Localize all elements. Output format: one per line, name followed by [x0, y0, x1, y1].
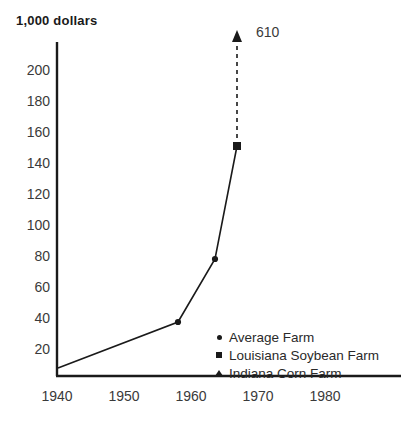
data-point-marker-1969	[212, 256, 218, 262]
legend-label-louisiana-soybean-farm: Louisiana Soybean Farm	[229, 348, 379, 363]
legend-triangle-icon	[212, 370, 226, 376]
chart-container: 1,000 dollars 200 180 160 140 120 100 80…	[0, 0, 412, 435]
legend-label-indiana-corn-farm: Indiana Corn Farm	[229, 366, 342, 381]
legend-item-average-farm: Average Farm	[212, 328, 379, 346]
data-line-average-farm	[58, 146, 237, 368]
legend-square-icon	[212, 352, 226, 358]
data-point-marker-1960	[175, 319, 181, 325]
legend-item-louisiana-soybean-farm: Louisiana Soybean Farm	[212, 346, 379, 364]
legend-label-average-farm: Average Farm	[229, 330, 314, 345]
data-point-marker-soybean-1971	[233, 142, 241, 150]
chart-legend: Average Farm Louisiana Soybean Farm Indi…	[212, 328, 379, 382]
legend-circle-icon	[212, 335, 226, 340]
legend-item-indiana-corn-farm: Indiana Corn Farm	[212, 364, 379, 382]
arrow-head-triangle-icon	[232, 30, 242, 42]
